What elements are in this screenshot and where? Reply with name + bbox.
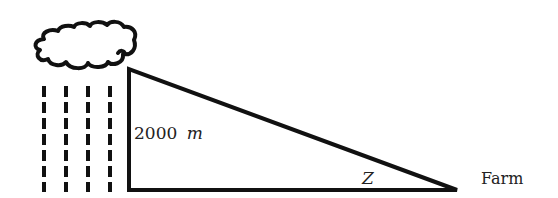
cloud-icon [35,22,135,68]
angle-label: Z [361,168,375,188]
diagram-canvas: 2000 m Z Farm [0,0,558,198]
rain-icon [44,86,110,192]
height-label: 2000 m [134,123,203,143]
farm-label: Farm [481,169,523,188]
